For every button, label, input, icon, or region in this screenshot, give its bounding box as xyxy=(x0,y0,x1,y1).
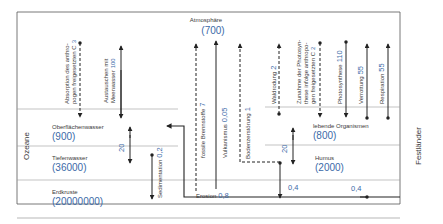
flow-waldrodung: Waldrodung2 xyxy=(269,44,279,114)
reservoir-tiefenwasser: Tiefenwasser (36000) xyxy=(52,155,87,173)
flow-land-humus: 20 xyxy=(280,128,293,164)
svg-text:Meerwasser100: Meerwasser100 xyxy=(110,58,116,103)
svg-text:Austauschen mit: Austauschen mit xyxy=(103,58,109,103)
svg-text:Verrottung55: Verrottung55 xyxy=(356,66,365,104)
svg-text:(800): (800) xyxy=(313,130,336,141)
svg-text:(700): (700) xyxy=(201,25,224,36)
reservoir-lebende-organismen: lebende Organismen (800) xyxy=(313,123,369,141)
svg-text:Tiefenwasser: Tiefenwasser xyxy=(52,155,87,161)
svg-text:(20000000): (20000000) xyxy=(52,196,103,207)
svg-text:Oberflächenwasser: Oberflächenwasser xyxy=(52,124,104,130)
reservoir-humus: Humus (2000) xyxy=(315,155,344,173)
carbon-cycle-diagram: Ozeane Festländer Atmosphäre (700) Oberf… xyxy=(0,0,443,224)
svg-text:Sedimentation0,2: Sedimentation0,2 xyxy=(155,147,164,198)
reservoir-erdkruste: Erdkruste (20000000) xyxy=(52,189,103,207)
svg-text:Absorption des anthro-: Absorption des anthro- xyxy=(64,43,70,104)
region-label-ozeane: Ozeane xyxy=(22,131,31,160)
svg-text:0,4: 0,4 xyxy=(351,184,361,193)
flow-photosynthese: Photosynthese110 xyxy=(335,42,346,117)
flow-vulkanismus: Vulkanismus0,05 xyxy=(216,41,229,189)
svg-text:Bodenzerstörung1: Bodenzerstörung1 xyxy=(243,107,252,159)
reservoir-atmosphaere: Atmosphäre (700) xyxy=(190,17,225,36)
svg-text:(900): (900) xyxy=(52,131,75,142)
flow-humus-kruste: 0,4 xyxy=(280,163,298,198)
svg-text:Zunahme der Photosyn-: Zunahme der Photosyn- xyxy=(296,40,302,104)
flow-absorption: Absorption des anthro- pogen freigesetzt… xyxy=(64,39,80,117)
svg-text:(36000): (36000) xyxy=(52,162,86,173)
svg-text:Erosion0,8: Erosion0,8 xyxy=(196,191,229,200)
svg-text:Humus: Humus xyxy=(315,155,334,161)
svg-text:gen freigesetzten C2: gen freigesetzten C2 xyxy=(310,46,316,104)
flow-kruste-land: 0,4 xyxy=(351,184,367,197)
svg-text:Waldrodung2: Waldrodung2 xyxy=(269,66,278,104)
svg-text:lebende Organismen: lebende Organismen xyxy=(313,123,369,129)
svg-text:these infolge anthropo-: these infolge anthropo- xyxy=(303,43,309,104)
svg-text:pogen freigesetzten C3: pogen freigesetzten C3 xyxy=(71,39,77,104)
svg-text:0,4: 0,4 xyxy=(288,183,298,192)
svg-text:(2000): (2000) xyxy=(315,162,344,173)
flow-zunahme-photosynthese: Zunahme der Photosyn- these infolge anth… xyxy=(296,40,320,117)
svg-text:20: 20 xyxy=(117,144,126,152)
reservoir-oberflaechenwasser: Oberflächenwasser (900) xyxy=(52,124,104,142)
flow-ozean-tiefen: 20 xyxy=(117,127,130,163)
flow-austausch: Austauschen mit Meerwasser100 xyxy=(103,46,121,118)
svg-text:Vulkanismus0,05: Vulkanismus0,05 xyxy=(220,108,229,158)
svg-text:Erdkruste: Erdkruste xyxy=(52,189,78,195)
svg-text:20: 20 xyxy=(280,145,289,153)
region-label-festlaender: Festländer xyxy=(414,127,423,165)
svg-text:Respiration55: Respiration55 xyxy=(377,63,386,104)
svg-text:fossile Brennstoffe7: fossile Brennstoffe7 xyxy=(198,103,207,158)
flow-fossile-brennstoffe: fossile Brennstoffe7 xyxy=(196,44,207,191)
svg-text:Photosynthese110: Photosynthese110 xyxy=(335,50,344,104)
flow-sedimentation: Sedimentation0,2 xyxy=(152,147,164,199)
svg-text:Atmosphäre: Atmosphäre xyxy=(190,17,223,23)
